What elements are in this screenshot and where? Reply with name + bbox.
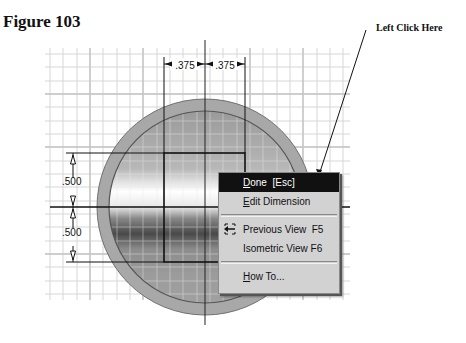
menu-item-isometric-view[interactable]: Isometric View F6 [219,239,339,258]
previous-view-icon [223,223,237,235]
dimension-left-lower: .500 [62,227,82,238]
dimension-top-left: .375 [175,60,195,71]
menu-item-isometric-view-label: Isometric View F6 [243,243,322,254]
mnemonic-e: E [243,196,250,207]
menu-item-edit-dimension-label: dit Dimension [250,196,311,207]
menu-item-previous-view-label: Previous View F5 [243,224,323,235]
menu-item-previous-view[interactable]: Previous View F5 [219,220,339,239]
dimension-left-upper: .500 [62,176,82,187]
menu-item-how-to[interactable]: How To... [219,267,339,286]
menu-item-edit-dimension[interactable]: Edit Dimension [219,192,339,211]
menu-separator [221,214,337,217]
menu-item-done[interactable]: Done [Esc] [219,173,339,192]
menu-item-done-label: one [Esc] [250,177,294,188]
menu-item-how-to-label: ow To... [250,271,284,282]
dimension-top-right: .375 [215,60,235,71]
context-menu: Done [Esc] Edit Dimension Previous View … [218,172,340,294]
menu-separator [221,261,337,264]
